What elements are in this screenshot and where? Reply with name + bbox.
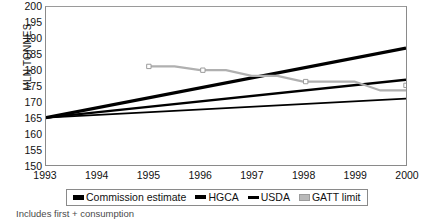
y-tick-label: 170 (16, 97, 42, 107)
legend-label: HGCA (208, 191, 238, 203)
chart-footnote: Includes first + consumption (16, 208, 134, 219)
y-tick-label: 180 (16, 65, 42, 75)
plot-area (45, 6, 407, 166)
y-tick-label: 190 (16, 33, 42, 43)
x-tick-label: 1998 (282, 169, 326, 181)
x-tick-label: 1999 (333, 169, 377, 181)
legend-label: GATT limit (312, 191, 361, 203)
x-tick-label: 1993 (23, 169, 67, 181)
series-line (149, 66, 406, 90)
y-tick-label: 195 (16, 17, 42, 27)
x-tick-label: 1994 (75, 169, 119, 181)
y-tick-label: 200 (16, 1, 42, 11)
legend-swatch-icon (299, 194, 310, 201)
y-axis-tick-labels: 200195190185180175170165160155150 (14, 0, 42, 172)
legend-item[interactable]: GATT limit (299, 191, 361, 203)
x-tick-label: 2000 (385, 169, 423, 181)
x-tick-label: 1997 (230, 169, 274, 181)
series-marker (304, 79, 308, 83)
legend-label: USDA (261, 191, 290, 203)
chart-legend: Commission estimateHGCAUSDAGATT limit (66, 189, 368, 206)
x-tick-label: 1996 (178, 169, 222, 181)
x-axis-tick-labels: 19931994199519961997199819992000 (45, 169, 407, 183)
legend-item[interactable]: USDA (248, 191, 290, 203)
y-tick-label: 155 (16, 145, 42, 155)
legend-swatch-icon (248, 196, 259, 199)
series-marker (404, 83, 406, 87)
legend-item[interactable]: Commission estimate (73, 191, 186, 203)
series-marker (201, 68, 205, 72)
y-tick-label: 185 (16, 49, 42, 59)
y-tick-label: 160 (16, 129, 42, 139)
series-marker (147, 64, 151, 68)
legend-swatch-icon (73, 195, 84, 200)
series-line (46, 48, 406, 118)
series-canvas (46, 7, 406, 165)
legend-item[interactable]: HGCA (195, 191, 238, 203)
legend-label: Commission estimate (86, 191, 186, 203)
legend-swatch-icon (195, 195, 206, 199)
x-tick-label: 1995 (126, 169, 170, 181)
y-tick-label: 165 (16, 113, 42, 123)
series-line (46, 80, 406, 118)
y-tick-label: 175 (16, 81, 42, 91)
